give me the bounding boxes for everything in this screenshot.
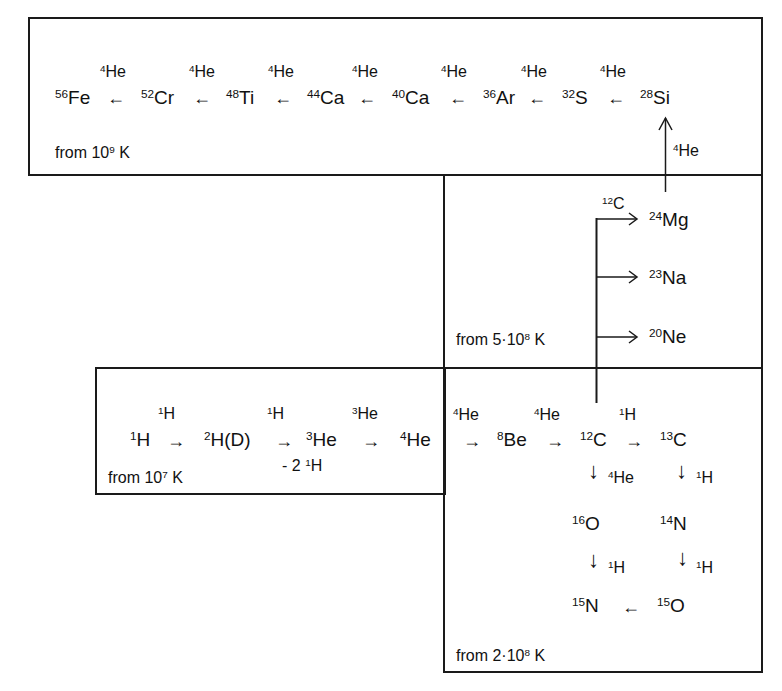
reactant-h1-c13: 1H (696, 470, 713, 486)
arrow-right-icon: → (546, 432, 564, 450)
nuclide-cr52: 52Cr (141, 88, 174, 107)
reactant-he4: 4He (100, 64, 126, 80)
arrow-down-icon: ↓ (588, 549, 599, 571)
reactant-h1-o16: 1H (608, 560, 625, 576)
nuclide-be8: 8Be (497, 430, 527, 449)
arrow-left-icon: ← (107, 89, 125, 107)
arrow-down-icon: ↓ (676, 460, 687, 482)
nuclide-he3: 3He (306, 430, 337, 449)
nuclide-c12: 12C (580, 430, 607, 449)
reactant-he4: 4He (352, 64, 378, 80)
reactant-h1: 1H (158, 406, 175, 422)
nuclide-o15: 15O (657, 596, 685, 615)
nuclide-ca40: 40Ca (392, 88, 429, 107)
reactant-h1: 1H (267, 406, 284, 422)
nuclide-ar36: 36Ar (483, 88, 515, 107)
reactant-he4-c12: 4He (608, 470, 634, 486)
temperature-label-hydrogen: from 107 K (108, 470, 183, 486)
nuclide-ti48: 48Ti (226, 88, 254, 107)
nuclide-ca44: 44Ca (307, 88, 344, 107)
nuclide-n15: 15N (572, 596, 599, 615)
nuclide-si28: 28Si (640, 88, 670, 107)
nuclide-n14: 14N (660, 514, 687, 533)
nuclide-o16: 16O (572, 514, 600, 533)
arrow-left-icon: ← (449, 89, 467, 107)
arrow-right-icon: → (275, 432, 293, 450)
reactant-he4: 4He (441, 64, 467, 80)
arrow-left-icon: ← (274, 89, 292, 107)
nuclide-he4: 4He (400, 430, 431, 449)
reactant-he3: 3He (352, 406, 378, 422)
nuclide-s32: 32S (562, 88, 588, 107)
reactant-he4-b: 4He (534, 407, 560, 423)
arrow-left-icon: ← (193, 89, 211, 107)
nuclide-fe56: 56Fe (55, 88, 90, 107)
reactant-h1-n14: 1H (696, 560, 713, 576)
nuclide-na23: 23Na (649, 268, 686, 287)
nuclide-c13: 13C (660, 430, 687, 449)
arrow-left-icon: ← (528, 89, 546, 107)
arrow-right-icon: → (362, 432, 380, 450)
arrow-down-icon: ↓ (677, 547, 688, 569)
arrow-right-icon: → (625, 432, 643, 450)
arrow-right-icon: → (167, 432, 185, 450)
arrow-left-icon: ← (622, 598, 640, 616)
reactant-he4-a: 4He (453, 407, 479, 423)
nuclide-mg24: 24Mg (649, 210, 689, 229)
nuclide-ne20: 20Ne (649, 327, 686, 346)
nuclide-h1: 1H (130, 430, 150, 449)
nuclide-h2-deuterium: 2H(D) (204, 430, 251, 449)
arrow-down-icon: ↓ (588, 460, 599, 482)
temperature-label-silicon: from 109 K (55, 145, 130, 161)
reactant-he4: 4He (521, 64, 547, 80)
arrow-right-icon: → (463, 432, 481, 450)
arrow-left-icon: ← (358, 89, 376, 107)
byproduct-2h1: - 2 1H (282, 458, 322, 474)
reactant-he4: 4He (600, 64, 626, 80)
temperature-label-helium: from 2·108 K (456, 648, 545, 664)
reactant-c12: 12C (602, 196, 625, 212)
temperature-label-carbon: from 5·108 K (456, 332, 545, 348)
reactant-he4-mg-si: 4He (673, 143, 699, 159)
arrow-left-icon: ← (607, 89, 625, 107)
reactant-h1-c: 1H (619, 407, 636, 423)
reactant-he4: 4He (268, 64, 294, 80)
reactant-he4: 4He (189, 64, 215, 80)
